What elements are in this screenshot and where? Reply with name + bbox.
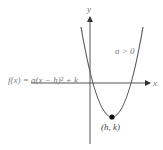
equation-label: f(x) = a(x − h)² + k — [8, 75, 79, 85]
y-axis-label: y — [86, 4, 91, 14]
condition-label: a > 0 — [115, 46, 135, 56]
vertex-label: (h, k) — [101, 122, 120, 132]
vertex-point — [109, 114, 114, 119]
parabola-diagram: f(x) = a(x − h)² + k a > 0 (h, k) x y — [0, 0, 163, 150]
x-axis-label: x — [152, 78, 157, 88]
